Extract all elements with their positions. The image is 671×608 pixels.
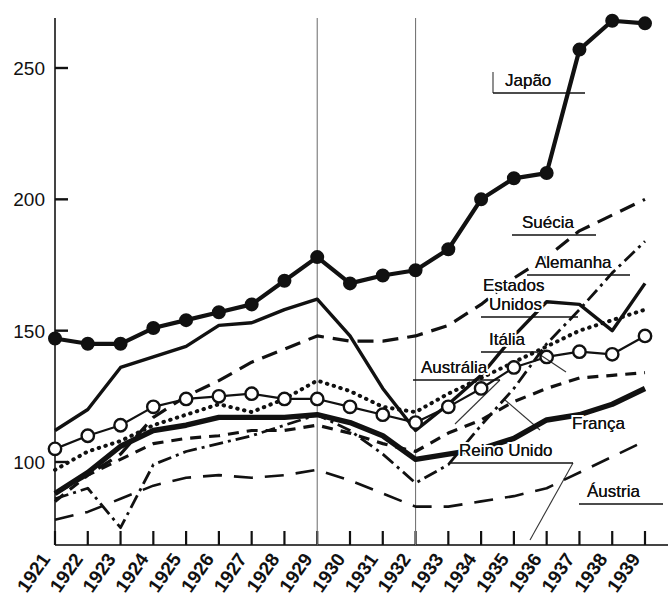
series-label: Suécia <box>522 213 575 232</box>
series-annotations: JapãoJapãoSuéciaSuéciaAlemanhaAlemanhaEs… <box>413 71 663 540</box>
data-point <box>213 390 225 402</box>
data-point <box>573 44 585 56</box>
data-point <box>344 277 356 289</box>
x-tick-label: 1937 <box>537 549 578 596</box>
data-point <box>245 388 257 400</box>
x-tick-label: 1927 <box>209 549 250 596</box>
data-point <box>442 401 454 413</box>
data-point <box>180 393 192 405</box>
data-point <box>344 401 356 413</box>
y-axis-tick-labels: 100150200250 <box>13 58 45 473</box>
x-tick-label: 1923 <box>78 549 119 596</box>
x-tick-label: 1932 <box>373 549 414 596</box>
series-line-jap-o <box>55 21 645 344</box>
data-point <box>278 393 290 405</box>
y-tick-label: 100 <box>13 452 45 473</box>
x-tick-label: 1928 <box>242 549 283 596</box>
data-point <box>606 348 618 360</box>
x-tick-label: 1925 <box>144 549 186 596</box>
data-point <box>82 338 94 350</box>
data-point <box>311 393 323 405</box>
data-point <box>278 275 290 287</box>
y-tick-label: 250 <box>13 58 45 79</box>
data-point <box>573 345 585 357</box>
x-tick-label: 1921 <box>13 549 55 596</box>
x-tick-label: 1936 <box>504 549 545 596</box>
data-point <box>409 416 421 428</box>
series-label: Itália <box>489 330 525 349</box>
data-point <box>508 172 520 184</box>
series-label: Unidos <box>489 295 542 314</box>
x-tick-label: 1933 <box>406 549 447 596</box>
data-point <box>639 17 651 29</box>
data-point <box>541 167 553 179</box>
data-point <box>311 251 323 263</box>
series-label: Austrália <box>421 358 488 377</box>
data-point <box>475 382 487 394</box>
series-line--ustria <box>55 441 645 520</box>
chart-figure: 100150200250 192119221923192419251926192… <box>0 0 671 608</box>
data-point <box>377 270 389 282</box>
series-label: França <box>572 414 625 433</box>
data-point <box>639 330 651 342</box>
data-point <box>410 264 422 276</box>
x-tick-label: 1931 <box>341 549 383 596</box>
x-tick-label: 1922 <box>46 549 87 596</box>
data-point <box>114 419 126 431</box>
x-tick-label: 1938 <box>570 549 611 596</box>
data-point <box>115 338 127 350</box>
data-point <box>442 243 454 255</box>
series-label: Japão <box>505 71 551 90</box>
series-label: Alemanha <box>535 253 612 272</box>
data-point <box>147 322 159 334</box>
data-point <box>180 314 192 326</box>
x-tick-label: 1935 <box>472 549 514 596</box>
data-point <box>377 409 389 421</box>
x-axis-tick-labels: 1921192219231924192519261927192819291930… <box>13 549 644 596</box>
series-label: Estados <box>483 276 544 295</box>
data-point <box>475 193 487 205</box>
data-point <box>213 306 225 318</box>
data-point <box>246 298 258 310</box>
y-tick-label: 200 <box>13 189 45 210</box>
series-label: Áustria <box>587 482 640 501</box>
y-tick-label: 150 <box>13 321 45 342</box>
data-point <box>49 443 61 455</box>
x-tick-label: 1930 <box>308 549 349 596</box>
x-tick-label: 1926 <box>177 549 218 596</box>
data-point <box>508 361 520 373</box>
series-lines <box>55 21 645 528</box>
data-point <box>49 333 61 345</box>
x-tick-label: 1924 <box>111 549 153 596</box>
data-point <box>147 401 159 413</box>
x-tick-label: 1939 <box>603 549 644 596</box>
line-chart-svg: 100150200250 192119221923192419251926192… <box>0 0 671 608</box>
series-label: Reino Unido <box>459 441 553 460</box>
x-tick-label: 1934 <box>439 549 481 596</box>
data-point <box>540 351 552 363</box>
data-point <box>82 430 94 442</box>
data-point <box>606 15 618 27</box>
x-tick-label: 1929 <box>275 549 316 596</box>
